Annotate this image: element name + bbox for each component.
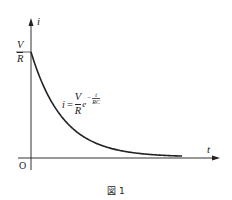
figure-caption: 図 1 bbox=[0, 184, 232, 197]
y-intercept-label: V R bbox=[17, 40, 23, 64]
equation-fraction: V R bbox=[75, 92, 81, 116]
equation-numerator: V bbox=[75, 92, 81, 103]
equation-base: e bbox=[82, 99, 86, 109]
y-axis-arrow bbox=[29, 18, 34, 26]
y-axis-label: i bbox=[37, 16, 40, 27]
equation-exponent: t RC bbox=[92, 92, 100, 105]
equation-exp-sign: − bbox=[87, 94, 91, 102]
y-intercept-denominator: R bbox=[17, 54, 23, 65]
diagram-canvas bbox=[0, 0, 232, 200]
equation-denominator: R bbox=[75, 106, 81, 117]
x-axis-arrow bbox=[212, 156, 220, 161]
equation-equals: = bbox=[67, 99, 73, 110]
y-intercept-numerator: V bbox=[17, 40, 23, 51]
x-axis-label: t bbox=[207, 144, 210, 155]
origin-label: O bbox=[19, 161, 26, 171]
curve-equation: i = V R e − t RC bbox=[62, 92, 100, 116]
equation-lhs: i bbox=[62, 99, 65, 110]
exponent-denominator: RC bbox=[92, 99, 100, 105]
decay-curve bbox=[31, 52, 182, 156]
